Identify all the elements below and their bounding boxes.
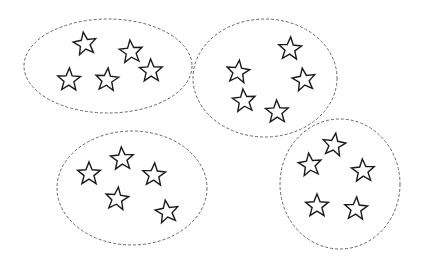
star-icon: [279, 37, 302, 59]
star-icon: [266, 100, 289, 122]
group-4: [280, 119, 400, 249]
star-icon: [58, 68, 81, 90]
star-icon: [292, 68, 315, 91]
star-icon: [306, 194, 329, 216]
star-icon: [155, 200, 178, 223]
star-grouping-diagram: [0, 0, 422, 265]
star-icon: [73, 32, 96, 55]
star-icon: [345, 197, 368, 219]
star-icon: [232, 89, 255, 111]
dashed-ellipse-outline: [57, 131, 207, 245]
dashed-ellipse-outline: [280, 119, 400, 249]
star-icon: [323, 133, 346, 156]
star-icon: [140, 59, 163, 81]
star-icon: [298, 153, 321, 175]
star-icon: [78, 162, 101, 184]
group-3: [57, 131, 207, 245]
dashed-ellipse-outline: [193, 19, 337, 137]
star-icon: [351, 159, 374, 181]
star-icon: [143, 163, 166, 185]
dashed-ellipse-outline: [24, 19, 192, 113]
star-icon: [119, 40, 142, 62]
group-2: [193, 19, 337, 137]
star-icon: [106, 187, 129, 209]
group-1: [24, 19, 192, 113]
star-icon: [96, 68, 119, 90]
star-icon: [110, 147, 133, 169]
star-icon: [227, 60, 250, 82]
